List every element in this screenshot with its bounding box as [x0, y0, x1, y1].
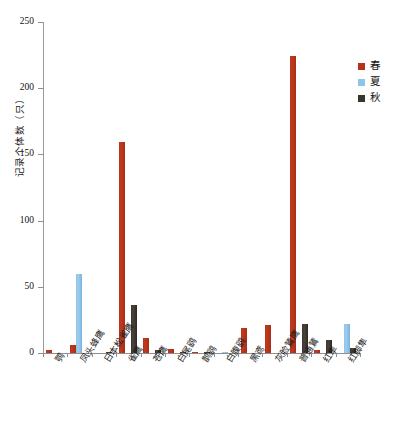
bar-group: [119, 22, 138, 353]
legend-label-autumn: 秋: [370, 93, 380, 104]
bar-chart: 记录个体数（只） 050100150200250 鹗凤头蜂鹰日本松雀鹰雀鹰苍鹰白…: [0, 0, 405, 421]
bar-group: [94, 22, 113, 353]
bar-group: [338, 22, 357, 353]
y-tick-label: 250: [0, 16, 34, 26]
legend-item-autumn[interactable]: 秋: [358, 90, 380, 106]
legend-swatch-autumn-icon: [358, 95, 365, 102]
y-tick-label: 200: [0, 82, 34, 92]
bar-group: [192, 22, 211, 353]
bar-group: [241, 22, 260, 353]
y-tick-label: 100: [0, 215, 34, 225]
plot-area: [43, 22, 360, 353]
legend-swatch-spring-icon: [358, 63, 365, 70]
legend-label-summer: 夏: [370, 77, 380, 88]
legend-item-spring[interactable]: 春: [358, 58, 380, 74]
y-tick-label: 0: [0, 347, 34, 357]
y-tick-label: 50: [0, 281, 34, 291]
x-tick-mark: [43, 353, 44, 357]
bar-group: [168, 22, 187, 353]
bar-group: [265, 22, 284, 353]
bar-group: [216, 22, 235, 353]
bar-group: [70, 22, 89, 353]
bar-summer[interactable]: [76, 274, 82, 353]
bar-spring[interactable]: [290, 56, 296, 353]
bar-group: [290, 22, 309, 353]
bar-group: [143, 22, 162, 353]
bar-group: [314, 22, 333, 353]
chart-legend: 春 夏 秋: [358, 58, 380, 106]
legend-swatch-summer-icon: [358, 79, 365, 86]
legend-item-summer[interactable]: 夏: [358, 74, 380, 90]
legend-label-spring: 春: [370, 61, 380, 72]
bar-group: [46, 22, 65, 353]
bar-spring[interactable]: [46, 350, 52, 353]
y-tick-label: 150: [0, 148, 34, 158]
y-axis-title: 记录个体数（只）: [12, 80, 26, 190]
